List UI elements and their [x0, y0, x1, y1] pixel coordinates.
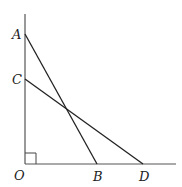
label-A: A — [11, 27, 21, 42]
geometry-diagram: A C O B D — [0, 0, 182, 187]
right-angle-marker — [25, 153, 36, 164]
label-O: O — [14, 168, 25, 183]
segment-CD — [25, 79, 143, 164]
label-B: B — [92, 169, 103, 184]
segment-AB — [25, 34, 97, 164]
label-C: C — [12, 72, 22, 87]
label-D: D — [138, 169, 150, 184]
